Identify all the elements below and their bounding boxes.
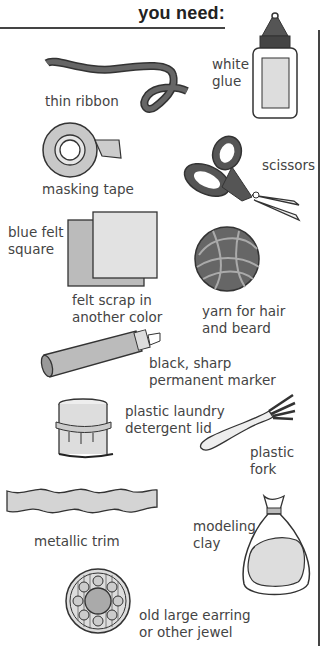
label-jewel: old large earring or other jewel [139,607,251,641]
label-thin-ribbon: thin ribbon [45,93,119,110]
label-felt-scrap: felt scrap in another color [72,292,162,326]
scissors-icon [182,135,302,225]
section-title: you need: [138,3,225,24]
label-white-glue: white glue [212,56,249,90]
label-scissors: scissors [262,157,315,174]
label-plastic-fork: plastic fork [250,444,294,478]
label-blue-felt-square: blue felt square [8,224,64,258]
label-yarn: yarn for hair and beard [202,303,285,337]
detergent-lid-icon [55,398,115,458]
column-divider [318,30,320,646]
marker-icon [36,325,166,380]
tape-roll-icon [42,120,127,190]
label-masking-tape: masking tape [42,181,134,198]
glue-bottle-icon [250,12,300,122]
metallic-trim-icon [5,485,160,520]
ribbon-icon [45,55,195,125]
clay-bag-icon [240,494,315,599]
title-rule [0,27,225,29]
yarn-ball-icon [193,225,263,295]
label-metallic-trim: metallic trim [34,533,120,550]
felt-square-icon [67,210,162,290]
jewel-icon [64,567,132,635]
label-marker: black, sharp permanent marker [149,355,276,389]
